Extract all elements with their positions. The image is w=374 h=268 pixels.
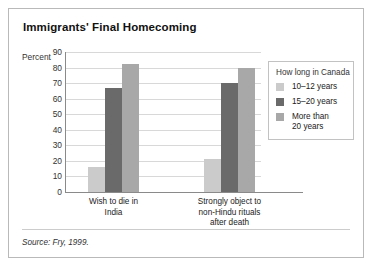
- bar-group: Wish to die inIndia: [88, 52, 139, 192]
- y-axis-tick-label: 40: [53, 126, 62, 134]
- legend-label-line: 15–20 years: [292, 97, 337, 107]
- x-axis-category-line: Wish to die in: [55, 197, 173, 208]
- legend-label: 15–20 years: [292, 97, 337, 107]
- x-axis-category-label: Strongly object tonon-Hindu ritualsafter…: [171, 197, 289, 229]
- legend-item: 15–20 years: [276, 97, 346, 107]
- bar: [204, 159, 221, 192]
- y-axis-tick-label: 60: [53, 94, 62, 102]
- x-axis-category-label: Wish to die inIndia: [55, 197, 173, 218]
- source-divider: [22, 229, 350, 230]
- y-axis-title: Percent: [22, 52, 51, 62]
- x-axis-category-line: non-Hindu rituals: [171, 208, 289, 219]
- bar-group: Strongly object tonon-Hindu ritualsafter…: [204, 52, 255, 192]
- bar: [238, 68, 255, 192]
- plot-inner: 9080706050403020100 Wish to die inIndiaS…: [66, 52, 261, 192]
- chart-title: Immigrants' Final Homecoming: [23, 21, 197, 33]
- legend-item: 10–12 years: [276, 82, 346, 92]
- legend-label-line: 20 years: [292, 122, 329, 132]
- y-axis-tick-label: 0: [57, 188, 62, 196]
- legend-label-line: More than: [292, 112, 329, 122]
- source-note: Source: Fry, 1999.: [22, 238, 89, 247]
- plot-area: 9080706050403020100 Wish to die inIndiaS…: [66, 52, 261, 192]
- x-axis-category-line: Strongly object to: [171, 197, 289, 208]
- legend-items: 10–12 years15–20 yearsMore than20 years: [276, 82, 346, 132]
- legend-swatch: [276, 83, 284, 91]
- legend-swatch: [276, 113, 284, 121]
- y-axis-tick-label: 70: [53, 79, 62, 87]
- bar: [88, 167, 105, 192]
- legend-label: More than20 years: [292, 112, 329, 132]
- bar: [221, 83, 238, 192]
- y-axis-tick-label: 10: [53, 172, 62, 180]
- y-axis-tick-label: 90: [53, 48, 62, 56]
- x-axis-category-line: India: [55, 208, 173, 219]
- legend-label: 10–12 years: [292, 82, 337, 92]
- chart-legend: How long in Canada 10–12 years15–20 year…: [268, 61, 354, 140]
- y-axis-tick-label: 80: [53, 63, 62, 71]
- chart-figure: Immigrants' Final Homecoming Percent 908…: [8, 8, 364, 258]
- y-axis-tick-label: 50: [53, 110, 62, 118]
- y-axis-line: [65, 52, 66, 192]
- y-axis-tick-label: 20: [53, 157, 62, 165]
- legend-label-line: 10–12 years: [292, 82, 337, 92]
- legend-swatch: [276, 98, 284, 106]
- x-axis-category-line: after death: [171, 218, 289, 229]
- legend-item: More than20 years: [276, 112, 346, 132]
- bar: [122, 64, 139, 192]
- y-axis-tick-label: 30: [53, 141, 62, 149]
- bar: [105, 88, 122, 192]
- legend-title: How long in Canada: [276, 68, 346, 77]
- x-axis-line: [65, 192, 303, 193]
